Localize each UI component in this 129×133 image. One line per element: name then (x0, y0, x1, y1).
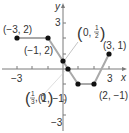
label-third-0: ( 1 3 , 0 ) (25, 90, 53, 107)
label-0-half: ( 0, 1 2 ) (77, 24, 105, 42)
x-axis-arrow-icon (122, 67, 127, 71)
point-3-1 (106, 51, 111, 56)
piecewise-graph: y x −3 3 3 −3 (−3, 2) (−1, 2) (1, −1) (2… (0, 0, 129, 133)
svg-text:): ) (48, 90, 53, 107)
y-tick-neg3: −3 (51, 117, 63, 128)
x-axis-label: x (120, 72, 127, 83)
point-2-m1 (91, 81, 96, 86)
point-1-m1 (75, 81, 80, 86)
point-0-half (60, 58, 65, 63)
label-m3-2: (−3, 2) (3, 24, 32, 35)
y-tick-pos3: 3 (55, 17, 61, 28)
x-tick-pos3: 3 (107, 73, 113, 84)
point-third-0 (65, 66, 70, 71)
label-3-1: (3, 1) (103, 40, 126, 51)
svg-text:, 0: , 0 (35, 92, 47, 103)
point-m1-2 (45, 35, 50, 40)
y-axis-label: y (54, 1, 61, 12)
label-m1-2: (−1, 2) (24, 45, 53, 56)
point-m3-2 (14, 35, 19, 40)
svg-text:0,: 0, (83, 27, 91, 38)
svg-text:): ) (100, 25, 105, 42)
label-2-m1: (2, −1) (99, 90, 128, 101)
y-axis-arrow-icon (61, 3, 65, 8)
x-tick-neg3: −3 (11, 73, 23, 84)
svg-text:1: 1 (95, 24, 99, 31)
leader-line-0-half (64, 42, 78, 61)
svg-text:2: 2 (95, 32, 99, 39)
